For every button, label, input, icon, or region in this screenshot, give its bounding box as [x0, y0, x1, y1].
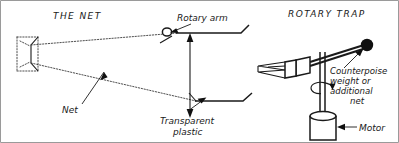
rotary-arm-label: Rotary arm: [177, 13, 228, 23]
technical-diagram-figure: Net THE NET: [0, 0, 399, 143]
net-section-title: THE NET: [53, 11, 102, 21]
net-label: Net: [62, 105, 78, 115]
net-mouth-frame: [17, 37, 38, 71]
rotary-arm-leader: [170, 24, 191, 33]
net-lower-edge: [31, 63, 196, 101]
diagram-canvas: Net THE NET: [0, 0, 399, 143]
counterpoise-label-line3: additional: [330, 86, 373, 96]
motor-leader: [337, 124, 357, 130]
net-leader: [82, 72, 108, 104]
rotary-trap-assembly: ROTARY TRAP: [258, 9, 387, 140]
transparent-plastic-label-line1: Transparent: [160, 116, 215, 126]
net-assembly: Net THE NET: [17, 11, 196, 115]
rotary-trap-section-title: ROTARY TRAP: [288, 9, 366, 19]
counterpoise-label-line1: Counterpoise: [330, 66, 387, 76]
counterpoise-label-line2: weight or: [330, 76, 371, 86]
vertical-double-arrow-icon: [187, 33, 194, 118]
rotary-arm-bar: [310, 45, 364, 62]
plastic-top-rail: [176, 25, 249, 33]
transparent-plastic-label-line2: plastic: [172, 127, 202, 137]
motor-label: Motor: [359, 123, 386, 133]
counterpoise-label-line4: net: [350, 96, 365, 106]
scoop-box-icon: [258, 57, 310, 78]
cylinder-icon: [310, 112, 336, 140]
transparent-plastic-panel: Rotary arm Transparent plastic: [160, 13, 252, 137]
net-upper-edge: [31, 33, 177, 45]
ring-pivot-icon: [162, 28, 171, 36]
